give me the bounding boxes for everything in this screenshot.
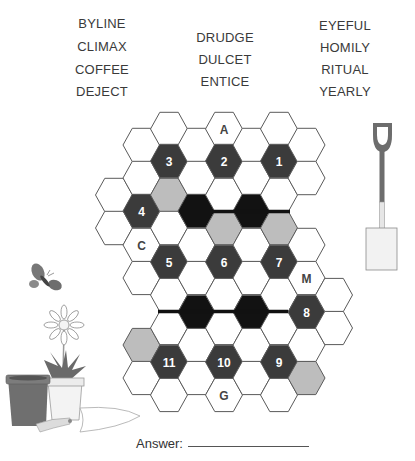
shovel-icon <box>366 123 397 270</box>
butterfly-icon <box>29 261 64 292</box>
daisy-icon <box>44 305 86 380</box>
flower-pots-icon <box>6 375 84 426</box>
answer-label: Answer: <box>136 436 183 451</box>
garden-illustrations <box>0 0 415 461</box>
answer-input-line[interactable] <box>188 446 309 447</box>
